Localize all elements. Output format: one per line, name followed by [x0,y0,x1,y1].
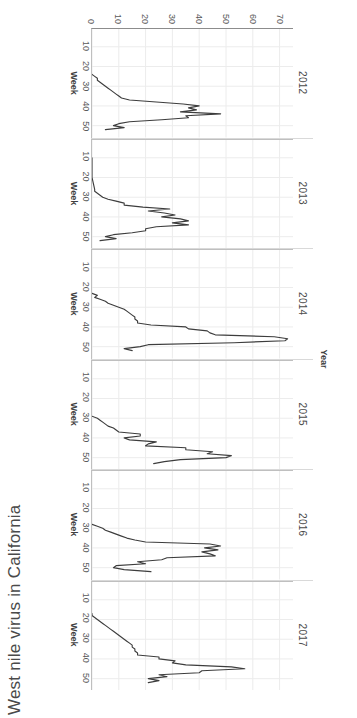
y-tick-label: 50 [221,14,231,24]
x-tick-label: 30 [81,522,91,532]
x-tick-label: 50 [81,342,91,352]
facet-row: 201220132014201520162017 [91,28,313,690]
y-tick-label: 0 [86,19,96,24]
x-axis-cell: 1020304050Week [65,580,91,690]
x-tick-label: 20 [81,282,91,292]
x-tick-label: 30 [81,302,91,312]
x-tick-label: 40 [81,653,91,663]
x-tick-label: 40 [81,432,91,442]
x-tick-label: 50 [81,121,91,131]
x-axis-title: Week [69,623,79,646]
x-tick-label: 30 [81,81,91,91]
x-axis-title: Week [69,182,79,205]
x-tick-label: 50 [81,232,91,242]
y-tick-label: 10 [113,14,123,24]
x-tick-label: 20 [81,392,91,402]
chart-canvas: West nile virus in California Year 20122… [0,0,357,718]
x-tick-label: 10 [81,372,91,382]
facet-panel [91,581,293,691]
facet-panel [91,360,293,470]
facet-strip-label: 2013 [293,139,313,249]
x-tick-label: 40 [81,212,91,222]
x-tick-label: 30 [81,191,91,201]
facet-panel [91,28,293,138]
x-tick-label: 20 [81,502,91,512]
x-axis-title: Week [69,402,79,425]
x-tick-label: 10 [81,593,91,603]
series-line [92,416,231,463]
x-tick-label: 10 [81,482,91,492]
facet-panel [91,249,293,359]
x-tick-label: 30 [81,633,91,643]
x-tick-label: 20 [81,171,91,181]
x-axis-title: Week [69,513,79,536]
y-tick-label: 70 [275,14,285,24]
y-axis: 010203040506070 [91,0,293,28]
page-title: West nile virus in California [5,355,25,715]
facet-strip-label: 2015 [293,360,313,470]
x-axis-title: Week [69,292,79,315]
x-axis-cell: 1020304050Week [65,249,91,359]
x-axis-cell: 1020304050Week [65,28,91,138]
x-tick-label: 50 [81,673,91,683]
x-tick-label: 20 [81,61,91,71]
facet-strip-label: 2012 [293,28,313,138]
x-axis-cell: 1020304050Week [65,359,91,469]
x-tick-label: 10 [81,41,91,51]
facet-2017: 2017 [91,580,313,691]
x-tick-label: 20 [81,613,91,623]
facet-panel [91,470,293,580]
series-line [92,293,288,350]
x-tick-label: 40 [81,101,91,111]
facet-panel [91,139,293,249]
facet-strip-label: 2017 [293,581,313,691]
series-line [92,157,188,240]
facet-2012: 2012 [91,28,313,138]
x-axis: 1020304050Week1020304050Week1020304050We… [65,28,91,690]
facet-strip-label: 2014 [293,249,313,359]
x-axis-cell: 1020304050Week [65,138,91,248]
facet-2015: 2015 [91,359,313,470]
facet-strip-label: 2016 [293,470,313,580]
x-tick-label: 40 [81,322,91,332]
x-axis-title: Week [69,71,79,94]
facet-2014: 2014 [91,248,313,359]
y-tick-label: 30 [167,14,177,24]
series-line [92,613,245,682]
x-tick-label: 30 [81,412,91,422]
x-tick-label: 50 [81,452,91,462]
facet-2016: 2016 [91,469,313,580]
x-tick-label: 10 [81,151,91,161]
y-tick-label: 40 [194,14,204,24]
facet-2013: 2013 [91,138,313,249]
plot-area: Year 201220132014201520162017 1020304050… [45,28,313,690]
facet-variable-label: Year [319,28,329,690]
y-tick-label: 60 [248,14,258,24]
x-tick-label: 50 [81,563,91,573]
x-tick-label: 40 [81,543,91,553]
x-tick-label: 10 [81,262,91,272]
y-tick-label: 20 [140,14,150,24]
series-line [92,74,221,129]
x-axis-cell: 1020304050Week [65,469,91,579]
